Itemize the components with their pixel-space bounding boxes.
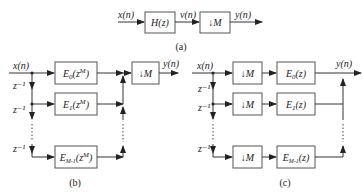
panel-b: x(n) z⁻¹ z⁻¹ z⁻¹ E0(zM) E1(zM) EM-1(zM) [9,58,180,189]
downsampler-label: ↓M [241,152,255,163]
delay-label: z⁻¹ [12,80,25,91]
mid-label: v(n) [180,9,197,21]
polyphase-decimator-diagram: x(n) H(z) v(n) ↓M y(n) (a) x(n) z⁻¹ z⁻¹ … [0,0,363,196]
input-label: x(n) [196,60,214,72]
delay-label: z⁻¹ [12,143,25,154]
downsampler-label: ↓M [241,68,255,79]
caption-c: (c) [279,177,290,189]
caption-a: (a) [175,41,186,53]
delay-label: z⁻¹ [197,102,210,113]
delay-label: z⁻¹ [197,143,210,154]
input-label: x(n) [117,9,135,21]
output-label: y(n) [335,58,353,70]
downsampler-label: ↓M [208,17,222,28]
filter-label: H(z) [150,17,169,29]
panel-c: x(n) z⁻¹ z⁻¹ z⁻¹ ↓M ↓M ↓M E0(z) E1(z) EM… [192,58,361,189]
delay-label: z⁻¹ [12,104,25,115]
delay-label: z⁻¹ [197,83,210,94]
e0-label: E0(zM) [62,67,90,81]
input-label: x(n) [12,60,30,72]
downsampler-label: ↓M [241,99,255,110]
panel-a: x(n) H(z) v(n) ↓M y(n) (a) [117,9,262,53]
downsampler-label: ↓M [139,68,153,79]
output-label: y(n) [162,58,180,70]
e1-label: E1(zM) [62,98,90,112]
output-label: y(n) [234,9,252,21]
caption-b: (b) [69,177,81,189]
